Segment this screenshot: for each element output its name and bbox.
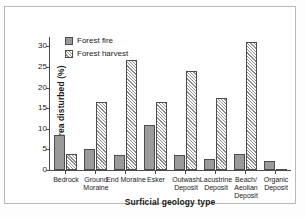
x-axis-line (49, 170, 291, 171)
x-axis-label: Surficial geology type (50, 197, 290, 207)
x-tick-mark (185, 170, 186, 174)
bar-forest-harvest (126, 60, 137, 170)
y-tick-mark (46, 67, 50, 68)
legend-swatch-forest-harvest (65, 50, 73, 58)
y-tick-label: 0 (17, 166, 47, 174)
y-tick-mark (46, 46, 50, 47)
y-tick-mark (46, 129, 50, 130)
bar-forest-harvest (96, 102, 107, 170)
bar-forest-fire (174, 155, 185, 170)
bar-forest-fire (204, 159, 215, 170)
x-tick-mark (125, 170, 126, 174)
bar-forest-fire (84, 149, 95, 170)
y-tick-mark (46, 170, 50, 171)
x-tick-label: Organic Deposit (253, 176, 299, 192)
y-tick-mark (46, 88, 50, 89)
x-tick-mark (245, 170, 246, 174)
chart-legend: Forest fireForest harvest (65, 35, 128, 61)
y-tick-label: 15 (17, 104, 47, 112)
y-tick-mark (46, 108, 50, 109)
x-tick-mark (215, 170, 216, 174)
bar-forest-fire (144, 125, 155, 170)
x-tick-mark (65, 170, 66, 174)
figure-container: Area disturbed (%) 051015202530 BedrockG… (0, 0, 306, 217)
x-tick-mark (95, 170, 96, 174)
bar-forest-fire (234, 154, 245, 170)
bar-forest-harvest (186, 71, 197, 170)
bar-forest-fire (114, 155, 125, 170)
bar-forest-fire (54, 135, 65, 170)
bar-forest-harvest (246, 42, 257, 170)
y-axis-label: Area disturbed (%) (56, 65, 66, 142)
bar-forest-harvest (276, 169, 287, 170)
y-tick-label: 20 (17, 84, 47, 92)
x-tick-mark (155, 170, 156, 174)
y-tick-label: 5 (17, 145, 47, 153)
legend-label: Forest fire (77, 35, 113, 46)
legend-swatch-forest-fire (65, 37, 73, 45)
bar-forest-harvest (216, 98, 227, 170)
figure-frame: Area disturbed (%) 051015202530 BedrockG… (4, 6, 296, 204)
y-tick-mark (46, 149, 50, 150)
bar-forest-harvest (156, 102, 167, 170)
y-tick-label: 10 (17, 125, 47, 133)
legend-item: Forest fire (65, 35, 128, 46)
bar-forest-harvest (66, 154, 77, 170)
legend-item: Forest harvest (65, 48, 128, 59)
x-tick-mark (275, 170, 276, 174)
y-tick-label: 25 (17, 63, 47, 71)
bar-forest-fire (264, 161, 275, 170)
legend-label: Forest harvest (77, 48, 128, 59)
y-tick-label: 30 (17, 42, 47, 50)
